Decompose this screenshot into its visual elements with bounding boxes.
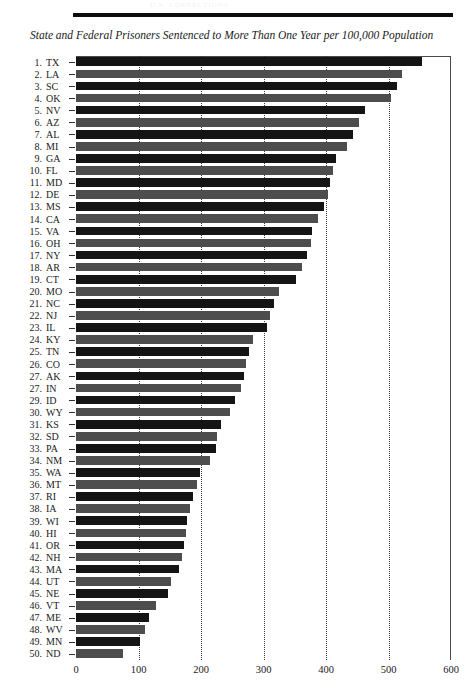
rank-label: 50. (8, 648, 42, 660)
bar-row: 3.SC (0, 80, 476, 92)
y-axis-tick (69, 74, 75, 75)
bar (76, 57, 422, 66)
rank-label: 27. (8, 371, 42, 383)
bar (76, 263, 302, 272)
bar-row: 4.OK (0, 92, 476, 104)
y-axis-tick (69, 557, 75, 558)
bar-row: 34.NM (0, 455, 476, 467)
rank-label: 27. (8, 383, 42, 395)
rank-label: 1. (8, 57, 42, 69)
bar (76, 456, 210, 465)
bar-row: 7.AL (0, 128, 476, 140)
bar (76, 202, 324, 211)
y-axis-tick (69, 581, 75, 582)
bar-row: 39.WI (0, 515, 476, 527)
bar-row: 43.MA (0, 563, 476, 575)
faint-page-header: U.S. CORRECTIONS (150, 1, 320, 9)
y-axis-tick (69, 618, 75, 619)
rank-label: 30. (8, 407, 42, 419)
y-axis-tick (69, 424, 75, 425)
bar-row: 50.ND (0, 648, 476, 660)
chart-plot-area: 1.TX2.LA3.SC4.OK5.NV6.AZ7.AL8.MI9.GA10.F… (0, 56, 476, 660)
bar (76, 347, 249, 356)
rank-label: 9. (8, 153, 42, 165)
bar-row: 18.AR (0, 261, 476, 273)
bar (76, 516, 187, 525)
bar-row: 37.RI (0, 491, 476, 503)
y-axis-tick (69, 243, 75, 244)
rank-label: 23. (8, 322, 42, 334)
rank-label: 42. (8, 552, 42, 564)
rank-label: 46. (8, 600, 42, 612)
y-axis-tick (69, 219, 75, 220)
bar-row: 26.CO (0, 358, 476, 370)
rank-label: 3. (8, 81, 42, 93)
bar (76, 480, 197, 489)
bar-row: 25.TN (0, 346, 476, 358)
bar (76, 287, 279, 296)
rank-label: 10. (8, 165, 42, 177)
y-axis-tick (69, 473, 75, 474)
y-axis-tick (69, 630, 75, 631)
rank-label: 49. (8, 636, 42, 648)
bar-row: 38.IA (0, 503, 476, 515)
rank-label: 43. (8, 564, 42, 576)
y-axis-tick (69, 400, 75, 401)
bar-row: 9.GA (0, 153, 476, 165)
rank-label: 19. (8, 274, 42, 286)
bar (76, 359, 246, 368)
bar (76, 323, 267, 332)
rank-label: 18. (8, 262, 42, 274)
bar (76, 239, 311, 248)
y-axis-tick (69, 606, 75, 607)
bar-row: 41.OR (0, 539, 476, 551)
bar-row: 8.MI (0, 141, 476, 153)
bar-row: 15.VA (0, 225, 476, 237)
y-axis-tick (69, 521, 75, 522)
rank-label: 20. (8, 286, 42, 298)
rank-label: 12. (8, 189, 42, 201)
bar-row: 45.NE (0, 588, 476, 600)
bar (76, 275, 296, 284)
rank-label: 37. (8, 491, 42, 503)
x-tick-label-400: 400 (306, 664, 346, 675)
bar (76, 251, 307, 260)
y-axis-tick (69, 569, 75, 570)
rank-label: 11. (8, 177, 42, 189)
bar-row: 48.WV (0, 624, 476, 636)
bar-row: 31.KS (0, 418, 476, 430)
y-axis-tick (69, 110, 75, 111)
y-axis-tick (69, 207, 75, 208)
y-axis-tick (69, 147, 75, 148)
bar (76, 625, 145, 634)
bar-row: 2.LA (0, 68, 476, 80)
y-axis-tick (69, 267, 75, 268)
rank-label: 5. (8, 105, 42, 117)
bar-row: 27.IN (0, 382, 476, 394)
bar (76, 577, 171, 586)
y-axis-tick (69, 533, 75, 534)
bar-row: 44.UT (0, 575, 476, 587)
bar-row: 14.CA (0, 213, 476, 225)
rank-label: 6. (8, 117, 42, 129)
bar (76, 601, 156, 610)
bar (76, 504, 190, 513)
rank-label: 39. (8, 516, 42, 528)
rank-label: 22. (8, 310, 42, 322)
y-axis-tick (69, 171, 75, 172)
y-axis-tick (69, 509, 75, 510)
bar-row: 11.MD (0, 177, 476, 189)
y-axis-tick (69, 352, 75, 353)
y-axis-tick (69, 304, 75, 305)
bar (76, 190, 328, 199)
rank-label: 33. (8, 443, 42, 455)
bar (76, 637, 140, 646)
bar-row: 24.KY (0, 334, 476, 346)
bar (76, 94, 391, 103)
bar-row: 49.MN (0, 636, 476, 648)
bar (76, 372, 244, 381)
bar (76, 468, 200, 477)
bar (76, 589, 168, 598)
rank-label: 32. (8, 431, 42, 443)
rank-label: 2. (8, 69, 42, 81)
